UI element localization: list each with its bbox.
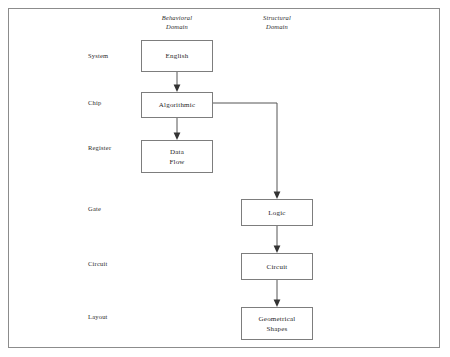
node-algorithmic-line1: Algorithmic [159, 100, 195, 110]
column-header-behavioral-line1: Behavioral [137, 14, 217, 23]
row-label-chip: Chip [88, 99, 101, 107]
node-data-flow[interactable]: Data Flow [141, 140, 213, 173]
diagram-frame [8, 8, 440, 348]
diagram-canvas: Behavioral Domain Structural Domain Syst… [0, 0, 450, 357]
node-circuit[interactable]: Circuit [241, 253, 313, 280]
node-algorithmic[interactable]: Algorithmic [141, 92, 213, 118]
column-header-structural-line1: Structural [237, 14, 317, 23]
row-label-system: System [88, 52, 108, 60]
node-data-flow-line2: Flow [169, 157, 184, 167]
node-logic-line1: Logic [268, 208, 285, 218]
node-logic[interactable]: Logic [241, 199, 313, 226]
node-geometrical-shapes-line2: Shapes [259, 324, 296, 334]
node-geometrical-shapes[interactable]: Geometrical Shapes [241, 307, 313, 340]
node-english-line1: English [166, 51, 189, 61]
row-label-register: Register [88, 144, 111, 152]
row-label-layout: Layout [88, 313, 108, 321]
row-label-gate: Gate [88, 205, 101, 213]
column-header-structural: Structural Domain [237, 14, 317, 31]
column-header-behavioral-line2: Domain [137, 23, 217, 32]
node-english[interactable]: English [141, 40, 213, 72]
row-label-circuit: Circuit [88, 260, 107, 268]
column-header-structural-line2: Domain [237, 23, 317, 32]
column-header-behavioral: Behavioral Domain [137, 14, 217, 31]
node-geometrical-shapes-line1: Geometrical [259, 314, 296, 324]
node-data-flow-line1: Data [169, 147, 184, 157]
node-circuit-line1: Circuit [267, 262, 288, 272]
